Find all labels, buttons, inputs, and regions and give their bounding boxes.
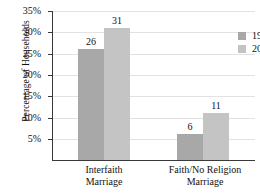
x-category-line-1: Faith/No Religion bbox=[150, 164, 260, 176]
x-category-line-2: Marriage bbox=[56, 176, 152, 188]
y-tick-label-20: 20% bbox=[23, 70, 41, 80]
bar-faithnoreligion-1988: 6 bbox=[177, 134, 203, 160]
bar-value-label: 11 bbox=[211, 100, 221, 111]
legend-item-1988: 1988 bbox=[238, 29, 260, 42]
x-category-label-interfaith: Interfaith Marriage bbox=[56, 164, 152, 187]
plot-area: 35% 30% 25% 20% 15% 10% 5% 26 bbox=[52, 11, 255, 161]
legend-label: 2008 bbox=[252, 43, 260, 54]
y-tick-label-10: 10% bbox=[23, 113, 41, 123]
y-tick-label-35: 35% bbox=[23, 6, 41, 16]
bar-faithnoreligion-2008: 11 bbox=[203, 113, 229, 160]
y-axis-line bbox=[52, 11, 53, 161]
x-category-line-1: Interfaith bbox=[56, 164, 152, 176]
legend-swatch-icon bbox=[238, 32, 246, 40]
bar-interfaith-1988: 26 bbox=[78, 49, 104, 160]
y-tick-label-5: 5% bbox=[28, 134, 41, 144]
gridline-35 bbox=[53, 11, 255, 12]
y-tick-label-25: 25% bbox=[23, 49, 41, 59]
y-tick-label-30: 30% bbox=[23, 27, 41, 37]
y-tick-label-15: 15% bbox=[23, 91, 41, 101]
bar-value-label: 6 bbox=[188, 121, 193, 132]
legend: 1988 2008 bbox=[238, 29, 260, 55]
bar-interfaith-2008: 31 bbox=[104, 28, 130, 160]
x-category-line-2: Marriage bbox=[150, 176, 260, 188]
legend-item-2008: 2008 bbox=[238, 42, 260, 55]
legend-label: 1988 bbox=[252, 30, 260, 41]
gridline-30 bbox=[53, 32, 255, 33]
x-category-label-faithnoreligion: Faith/No Religion Marriage bbox=[150, 164, 260, 187]
bar-value-label: 26 bbox=[86, 36, 96, 47]
legend-swatch-icon bbox=[238, 45, 246, 53]
x-axis-line bbox=[52, 160, 255, 161]
bar-chart: Percentage of Households 35% 30% 25% 20%… bbox=[0, 0, 260, 195]
bar-value-label: 31 bbox=[112, 15, 122, 26]
